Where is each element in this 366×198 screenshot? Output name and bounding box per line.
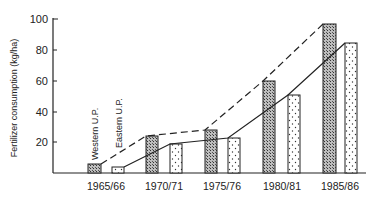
x-tick-labels: 1965/66 1970/71 1975/76 1980/81 1985/86 [87, 180, 359, 192]
y-tick-40: 40 [36, 106, 48, 118]
bar-western-1985 [323, 24, 336, 173]
bar-eastern-1965 [112, 167, 124, 173]
y-axis-label: Fertilizer consumption (kg/ha) [9, 39, 19, 158]
x-tick-1965: 1965/66 [87, 180, 125, 192]
y-axis: 100 80 60 40 20 Fertilizer consumption (… [9, 13, 58, 173]
bar-western-1980 [263, 81, 275, 173]
bar-western-1975 [205, 130, 217, 173]
y-tick-80: 80 [36, 44, 48, 56]
x-tick-1975: 1975/76 [203, 180, 241, 192]
y-tick-60: 60 [36, 75, 48, 87]
bar-eastern-1975 [228, 138, 240, 173]
series-label-western: Western U.P. [90, 108, 100, 160]
y-tick-100: 100 [30, 13, 48, 25]
y-tick-20: 20 [36, 136, 48, 148]
x-tick-1985: 1985/86 [321, 180, 359, 192]
x-tick-1980: 1980/81 [263, 180, 301, 192]
bar-eastern-1985 [345, 43, 357, 173]
x-tick-1970: 1970/71 [145, 180, 183, 192]
bar-eastern-1970 [170, 144, 182, 173]
series-label-eastern: Eastern U.P. [114, 98, 124, 148]
bar-eastern-1980 [288, 95, 300, 173]
bar-western-1965 [88, 164, 101, 173]
bar-chart: 100 80 60 40 20 Fertilizer consumption (… [0, 0, 366, 198]
